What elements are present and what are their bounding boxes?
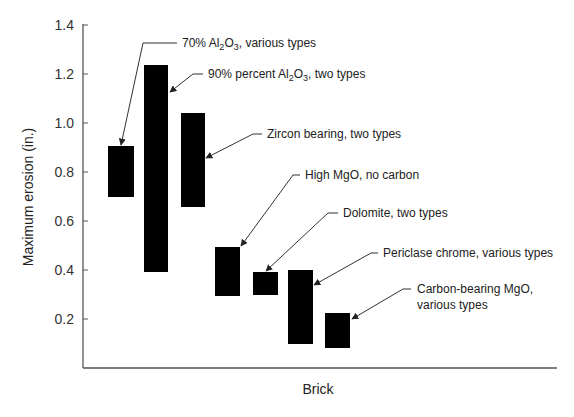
bar-dolomite xyxy=(253,272,278,295)
x-axis-title: Brick xyxy=(302,381,334,397)
bar-90-alumina xyxy=(144,65,168,272)
bars xyxy=(108,65,350,348)
y-tick-label: 0.2 xyxy=(55,311,75,327)
y-tick-label: 0.6 xyxy=(55,213,75,229)
y-tick-label: 0.4 xyxy=(55,262,75,278)
chart: 0.2 0.4 0.6 0.8 1.0 1.2 1.4 Maximum eros… xyxy=(0,0,574,417)
annotation-dolomite: Dolomite, two types xyxy=(343,206,448,220)
y-tick-label: 0.8 xyxy=(55,164,75,180)
annotation-90-alumina: 90% percent Al2O3, two types xyxy=(208,67,365,83)
y-ticks xyxy=(83,25,88,319)
y-tick-labels: 0.2 0.4 0.6 0.8 1.0 1.2 1.4 xyxy=(55,17,75,327)
bar-zircon xyxy=(181,113,205,207)
annotation-70-alumina: 70% Al2O3, various types xyxy=(182,36,316,52)
annotation-carbon-mgo-line1: Carbon-bearing MgO, xyxy=(417,282,533,296)
y-tick-label: 1.4 xyxy=(55,17,75,33)
bar-high-mgo xyxy=(215,247,240,296)
y-tick-label: 1.0 xyxy=(55,115,75,131)
annotation-zircon: Zircon bearing, two types xyxy=(267,127,401,141)
annotation-periclase-chrome: Periclase chrome, various types xyxy=(383,246,553,260)
y-axis-title: Maximum erosion (in.) xyxy=(20,128,36,266)
bar-carbon-mgo xyxy=(325,313,350,348)
annotation-carbon-mgo-line2: various types xyxy=(417,298,488,312)
bar-periclase-chrome xyxy=(288,270,313,344)
y-tick-label: 1.2 xyxy=(55,66,75,82)
annotation-high-mgo: High MgO, no carbon xyxy=(305,168,419,182)
bar-70-alumina xyxy=(108,146,134,197)
